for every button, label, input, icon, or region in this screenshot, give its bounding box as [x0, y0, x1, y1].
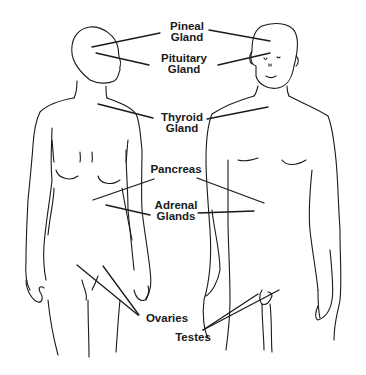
adrenal-leader-male — [198, 211, 254, 213]
label-pancreas: Pancreas — [146, 164, 206, 175]
female-head-outline — [72, 27, 121, 83]
label-thyroid-gland: Thyroid Gland — [153, 112, 211, 133]
pituitary-leader-male — [218, 53, 270, 65]
pineal-leader-female — [92, 33, 160, 47]
thyroid-leader-male — [207, 107, 268, 119]
label-ovaries: Ovaries — [142, 313, 192, 324]
label-pineal-gland: Pineal Gland — [159, 21, 215, 42]
label-testes: Testes — [171, 332, 215, 343]
pineal-leader-male — [209, 30, 270, 41]
female-neck — [74, 81, 77, 98]
pituitary-leader-female — [96, 53, 149, 65]
female-figure — [26, 27, 151, 357]
testes-leader-b — [203, 290, 279, 330]
label-adrenal-glands: Adrenal Glands — [150, 200, 202, 221]
leader-lines — [77, 30, 279, 330]
label-pituitary-gland: Pituitary Gland — [150, 53, 218, 74]
